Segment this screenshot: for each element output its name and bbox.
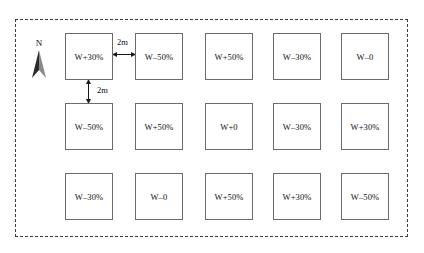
plot-box[interactable]: W+50% [135,103,183,150]
north-arrow-group: N [28,38,50,80]
plot-box[interactable]: W–50% [65,103,113,150]
plot-box[interactable]: W+0 [205,103,253,150]
plot-box[interactable]: W–50% [135,33,183,80]
north-label: N [28,38,50,48]
plot-label: W+30% [283,192,312,202]
plot-box[interactable]: W+50% [205,173,253,220]
plot-label: W+30% [75,52,104,62]
plot-label: W–0 [357,52,374,62]
plot-box[interactable]: W+30% [341,103,389,150]
plot-label: W+30% [351,122,380,132]
field-layout-figure: N 2m 2m W+30% W–50% W+50% W–30% W–0 W–50… [0,0,424,253]
plot-label: W+50% [215,192,244,202]
plot-box[interactable]: W–0 [135,173,183,220]
plot-box[interactable]: W+50% [205,33,253,80]
plot-box[interactable]: W+30% [273,173,321,220]
north-arrow-icon [28,49,50,79]
plot-label: W–30% [75,192,103,202]
horizontal-dimension-arrow-icon [112,50,136,59]
vertical-dimension-arrow-icon [84,79,93,104]
plot-box[interactable]: W–30% [273,103,321,150]
vertical-gap-label: 2m [97,85,108,95]
plot-label: W–0 [151,192,168,202]
plot-box[interactable]: W–30% [273,33,321,80]
plot-label: W–30% [283,122,311,132]
plot-label: W+50% [145,122,174,132]
plot-label: W–50% [351,192,379,202]
plot-label: W–50% [75,122,103,132]
plot-box[interactable]: W+30% [65,33,113,80]
plot-label: W+50% [215,52,244,62]
plot-box[interactable]: W–0 [341,33,389,80]
plot-box[interactable]: W–50% [341,173,389,220]
plot-label: W–30% [283,52,311,62]
plot-label: W–50% [145,52,173,62]
horizontal-gap-label: 2m [117,37,128,47]
plot-box[interactable]: W–30% [65,173,113,220]
plot-label: W+0 [220,122,237,132]
